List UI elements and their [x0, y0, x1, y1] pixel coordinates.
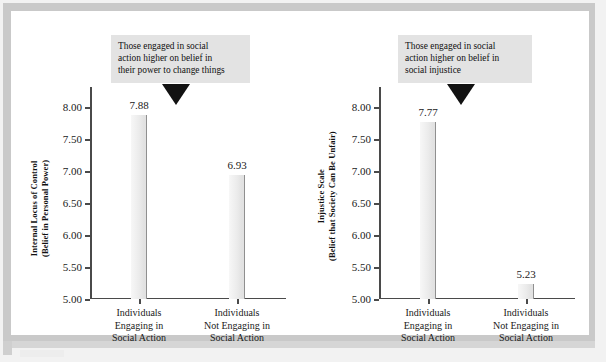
x-tick-mark: [428, 299, 430, 304]
x-tick-label-line: Social Action: [204, 332, 270, 345]
y-tick-label: 5.00: [352, 293, 371, 305]
y-tick-mark: [85, 203, 90, 205]
annotation-right-line3: social injustice: [405, 64, 525, 76]
plot-area-left: 8.007.507.006.506.005.505.007.88Individu…: [90, 107, 286, 299]
annotation-left-line1: Those engaged in social: [118, 40, 243, 52]
x-tick-label-line: Engaging in: [401, 320, 455, 333]
y-tick-label: 6.50: [63, 197, 82, 209]
x-tick-label-line: Social Action: [401, 332, 455, 345]
y-tick-mark: [85, 107, 90, 109]
y-axis-title-left: Internal Locus of Control (Belief in Per…: [29, 160, 51, 257]
bar: [420, 122, 436, 299]
x-axis-line-right: [379, 298, 575, 300]
annotation-right-line1: Those engaged in social: [405, 40, 525, 52]
annotation-pointer-triangle-right: [447, 84, 475, 105]
y-tick-mark: [374, 203, 379, 205]
y-axis-title-right-line1: Injustice Scale: [316, 169, 326, 223]
annotation-right-line2: action higher on belief in: [405, 52, 525, 64]
y-tick-label: 6.50: [352, 197, 371, 209]
y-tick-mark: [374, 235, 379, 237]
x-tick-label-line: Social Action: [112, 332, 166, 345]
x-tick-mark: [237, 299, 239, 304]
y-tick-label: 6.00: [63, 229, 82, 241]
annotation-pointer-triangle-left: [162, 84, 190, 105]
y-tick-label: 5.00: [63, 293, 82, 305]
y-tick-label: 7.00: [352, 165, 371, 177]
bar-value-label: 6.93: [227, 159, 246, 171]
y-tick-mark: [85, 235, 90, 237]
y-axis-line-right: [379, 87, 381, 299]
y-tick-label: 8.00: [352, 101, 371, 113]
annotation-left-line2: action higher on belief in: [118, 52, 243, 64]
y-tick-mark: [85, 299, 90, 301]
x-tick-mark: [139, 299, 141, 304]
y-tick-mark: [85, 139, 90, 141]
x-tick-label: IndividualsEngaging inSocial Action: [112, 307, 166, 345]
x-tick-label-line: Not Engaging in: [493, 320, 559, 333]
y-tick-mark: [374, 171, 379, 173]
y-tick-mark: [374, 267, 379, 269]
annotation-left-line3: their power to change things: [118, 64, 243, 76]
x-tick-label: IndividualsNot Engaging inSocial Action: [493, 307, 559, 345]
y-tick-label: 5.50: [63, 261, 82, 273]
bar: [131, 115, 147, 299]
y-axis-title-right-line2: (Belief that Society Can Be Unfair): [327, 131, 338, 261]
x-tick-mark: [526, 299, 528, 304]
figure-container: Internal Locus of Control (Belief in Per…: [0, 0, 606, 362]
bar-value-label: 5.23: [516, 268, 535, 280]
x-tick-label-line: Not Engaging in: [204, 320, 270, 333]
x-tick-label-line: Individuals: [112, 307, 166, 320]
x-tick-label-line: Social Action: [493, 332, 559, 345]
y-tick-mark: [374, 139, 379, 141]
y-tick-label: 7.50: [63, 133, 82, 145]
y-axis-title-right: Injustice Scale (Belief that Society Can…: [316, 131, 338, 261]
chart-panel-locus-of-control: Internal Locus of Control (Belief in Per…: [11, 11, 300, 335]
x-tick-label: IndividualsNot Engaging inSocial Action: [204, 307, 270, 345]
annotation-callout-left: Those engaged in social action higher on…: [111, 35, 250, 83]
y-tick-label: 6.00: [352, 229, 371, 241]
scan-smudge-artifact: [20, 350, 64, 357]
x-tick-label-line: Engaging in: [112, 320, 166, 333]
y-tick-mark: [374, 299, 379, 301]
x-tick-label-line: Individuals: [493, 307, 559, 320]
y-axis-line-left: [90, 87, 92, 299]
chart-panel-injustice-scale: Injustice Scale (Belief that Society Can…: [300, 11, 589, 335]
annotation-callout-right: Those engaged in social action higher on…: [398, 35, 532, 83]
bar-value-label: 7.77: [418, 106, 437, 118]
x-tick-label-line: Individuals: [204, 307, 270, 320]
plot-area-right: 8.007.507.006.506.005.505.007.77Individu…: [379, 107, 575, 299]
y-tick-label: 8.00: [63, 101, 82, 113]
bar-value-label: 7.88: [129, 99, 148, 111]
x-tick-label: IndividualsEngaging inSocial Action: [401, 307, 455, 345]
scan-edge-artifact: [3, 341, 12, 355]
y-tick-mark: [374, 107, 379, 109]
y-tick-mark: [85, 171, 90, 173]
bar: [229, 175, 245, 299]
y-axis-title-left-line1: Internal Locus of Control: [29, 161, 39, 257]
y-tick-mark: [85, 267, 90, 269]
y-tick-label: 7.50: [352, 133, 371, 145]
y-tick-label: 5.50: [352, 261, 371, 273]
x-tick-label-line: Individuals: [401, 307, 455, 320]
x-axis-line-left: [90, 298, 286, 300]
bar: [518, 284, 534, 299]
y-axis-title-left-line2: (Belief in Personal Power): [40, 160, 51, 257]
y-tick-label: 7.00: [63, 165, 82, 177]
